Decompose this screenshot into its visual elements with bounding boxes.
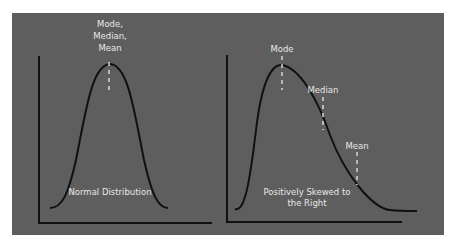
median-label: Median [308, 85, 339, 95]
distribution-diagram: Mode, Median, Mean Normal Distribution M… [0, 0, 453, 244]
mode-label: Mode [270, 44, 293, 54]
peak-label-line-1: Mode, [97, 19, 123, 29]
normal-distribution-chart: Mode, Median, Mean Normal Distribution [38, 19, 212, 223]
normal-distribution-caption: Normal Distribution [68, 187, 151, 197]
peak-label-line-2: Median, [93, 31, 127, 41]
skewed-caption-line-2: the Right [287, 198, 327, 208]
mean-label: Mean [345, 141, 368, 151]
skewed-distribution-chart: Mode Median Mean Positively Skewed to th… [226, 44, 417, 222]
peak-label-line-3: Mean [98, 43, 121, 53]
skewed-caption-line-1: Positively Skewed to [264, 187, 351, 197]
